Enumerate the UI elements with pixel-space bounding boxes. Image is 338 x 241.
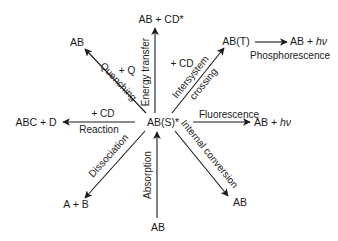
energy-transfer-product: AB + CD*: [138, 13, 183, 25]
quenching-reagent: + Q: [119, 65, 136, 76]
reaction-label: Reaction: [79, 124, 118, 135]
quenching-product: AB: [70, 36, 84, 48]
internal-conversion-product: AB: [233, 196, 247, 208]
reaction-product: ABC + D: [15, 116, 57, 128]
reaction-reagent: + CD: [91, 108, 114, 119]
absorption-source: AB: [151, 221, 165, 233]
photochemistry-diagram: AB(S)* AB + CD* Energy transfer + CD AB …: [0, 0, 338, 241]
internal-conversion-label: Internal conversion: [179, 118, 241, 191]
phosphorescence-label: Phosphorescence: [250, 50, 330, 61]
absorption-label: Absorption: [142, 151, 153, 199]
phosphorescence-product: AB + hν: [290, 35, 328, 47]
fluorescence-label: Fluorescence: [199, 109, 259, 120]
triplet-state-node: AB(T): [222, 35, 249, 47]
dissociation-product: A + B: [63, 198, 88, 210]
excited-singlet-node: AB(S)*: [147, 116, 179, 128]
fluorescence-product: AB + hν: [254, 116, 292, 128]
energy-transfer-label: Energy transfer: [140, 37, 151, 106]
